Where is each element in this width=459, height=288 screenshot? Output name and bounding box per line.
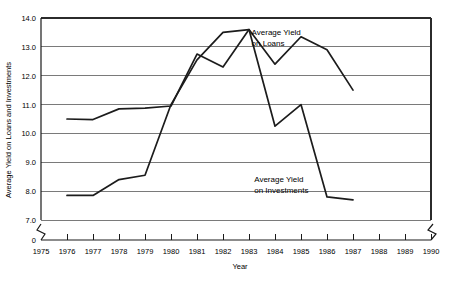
y-tick-labels: 7.08.09.010.011.012.013.014.0 <box>21 14 36 225</box>
x-tick-label: 1982 <box>215 247 232 256</box>
y-tick-label: 9.0 <box>26 158 36 167</box>
x-tick-label: 1987 <box>345 247 362 256</box>
x-axis-break-marker <box>428 224 436 240</box>
loans-label-line1: Average Yield <box>252 28 301 37</box>
investments-label-line2: on Investments <box>254 186 308 195</box>
x-tick-label: 1990 <box>423 247 440 256</box>
y-tick-label: 10.0 <box>21 129 36 138</box>
x-tick-label: 1986 <box>319 247 336 256</box>
y-tick-label: 7.0 <box>26 216 36 225</box>
y-tick-label: 11.0 <box>22 101 36 110</box>
y-tick-label: 12.0 <box>21 72 36 81</box>
x-tick-label: 1984 <box>267 247 284 256</box>
line-chart: 7.08.09.010.011.012.013.014.0 1975197619… <box>0 0 459 288</box>
y-axis-break-marker <box>37 224 45 240</box>
x-tick-label: 1983 <box>241 247 258 256</box>
x-tick-label: 1980 <box>163 247 180 256</box>
y-tick-label: 8.0 <box>26 187 36 196</box>
data-series <box>67 30 353 200</box>
y-tick-label: 13.0 <box>21 43 36 52</box>
x-tick-label: 1978 <box>111 247 128 256</box>
series-line-investments <box>67 30 353 200</box>
y-axis-zero-label: 0 <box>32 236 36 245</box>
investments-label-line1: Average Yield <box>254 175 303 184</box>
x-tick-label: 1977 <box>85 247 102 256</box>
series-line-loans <box>67 30 353 120</box>
x-tick-label: 1979 <box>137 247 154 256</box>
x-tick-label: 1988 <box>371 247 388 256</box>
loans-label-line2: on Loans <box>252 39 285 48</box>
x-tick-label: 1981 <box>189 247 206 256</box>
x-axis <box>41 224 436 240</box>
y-axis <box>37 18 45 240</box>
x-tick-label: 1985 <box>293 247 310 256</box>
x-axis-title: Year <box>232 262 248 271</box>
x-tick-label: 1989 <box>397 247 414 256</box>
x-tick-label: 1976 <box>59 247 76 256</box>
x-tick-labels: 1975197619771978197919801981198219831984… <box>33 247 440 256</box>
y-tick-label: 14.0 <box>21 14 36 23</box>
chart-container: 7.08.09.010.011.012.013.014.0 1975197619… <box>0 0 459 288</box>
x-tick-label: 1975 <box>33 247 50 256</box>
y-axis-title: Average Yield on Loans and Investments <box>4 62 13 198</box>
series-annotations: Average Yieldon LoansAverage Yieldon Inv… <box>252 28 309 196</box>
